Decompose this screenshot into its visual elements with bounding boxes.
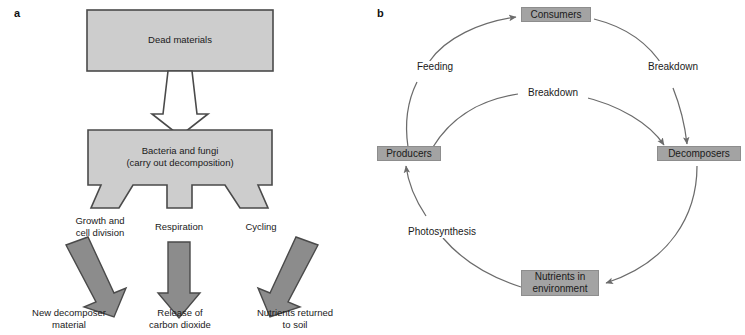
edge-feeding-upper bbox=[429, 17, 516, 62]
edge-label-breakdown-middle: Breakdown bbox=[518, 87, 588, 99]
hollow-arrow-down bbox=[152, 71, 208, 136]
edge-decomposers-to-nutrients bbox=[606, 166, 697, 283]
branch-label-cycling: Cycling bbox=[223, 221, 299, 233]
edge-breakdown-middle-right bbox=[580, 96, 664, 145]
branch-arrow-growth bbox=[66, 237, 126, 317]
panel-a-graphics bbox=[66, 10, 318, 318]
bacteria-fungi-box bbox=[88, 130, 272, 208]
edge-photosynthesis-upper bbox=[406, 166, 426, 216]
branch-arrow-cycling bbox=[258, 237, 318, 317]
dead-materials-box bbox=[87, 10, 273, 71]
node-producers: Producers bbox=[377, 146, 441, 161]
outcome-label-carbon-dioxide: Release of carbon dioxide bbox=[128, 307, 232, 330]
figure-container: a b bbox=[0, 0, 745, 335]
edge-breakdown-middle-left bbox=[433, 94, 518, 147]
edge-label-feeding: Feeding bbox=[404, 61, 466, 73]
edge-photosynthesis-lower bbox=[443, 238, 521, 287]
branch-label-respiration: Respiration bbox=[137, 221, 221, 233]
node-nutrients: Nutrients in environment bbox=[521, 270, 599, 296]
edge-breakdown-right-lower bbox=[673, 88, 687, 144]
edge-label-photosynthesis: Photosynthesis bbox=[396, 226, 488, 238]
panel-b-graphics bbox=[406, 17, 697, 287]
diagram-svg bbox=[0, 0, 745, 335]
edge-label-breakdown-right: Breakdown bbox=[635, 61, 711, 73]
outcome-label-new-decomposer: New decomposer material bbox=[12, 307, 126, 330]
outcome-label-nutrients-soil: Nutrients returned to soil bbox=[236, 307, 354, 330]
edge-feeding-lower bbox=[406, 82, 417, 147]
node-decomposers: Decomposers bbox=[657, 146, 741, 161]
node-consumers: Consumers bbox=[521, 7, 591, 22]
